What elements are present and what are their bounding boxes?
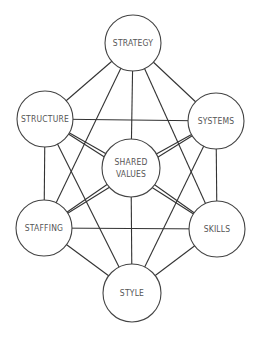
node-shared-values: SHAREDVALUES [102, 139, 160, 197]
node-label: SKILLS [204, 224, 231, 234]
node-label: STRUCTURE [21, 114, 69, 124]
node-label: STYLE [120, 288, 144, 298]
node-systems: SYSTEMS [188, 93, 244, 149]
node-structure: STRUCTURE [17, 91, 73, 147]
node-label: STAFFING [25, 223, 63, 233]
node-label: SYSTEMS [198, 116, 235, 126]
seven-s-diagram: STRATEGYSTRUCTURESYSTEMSSHAREDVALUESSTAF… [0, 0, 260, 340]
node-strategy: STRATEGY [105, 15, 161, 71]
node-style: STYLE [103, 264, 161, 322]
node-skills: SKILLS [189, 201, 245, 257]
node-label: VALUES [116, 169, 146, 179]
diagram-nodes: STRATEGYSTRUCTURESYSTEMSSHAREDVALUESSTAF… [16, 15, 245, 322]
node-staffing: STAFFING [16, 200, 72, 256]
node-circle [102, 139, 160, 197]
node-label: STRATEGY [113, 38, 153, 48]
node-label: SHARED [114, 157, 147, 167]
